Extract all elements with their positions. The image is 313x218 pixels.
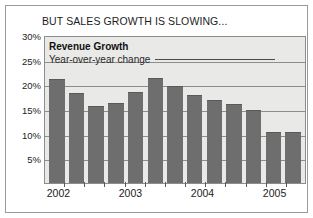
x-axis-tick	[246, 182, 247, 187]
x-axis-tick	[205, 182, 206, 187]
y-axis-tick-label: 25%	[9, 55, 41, 66]
legend-rule	[155, 59, 275, 60]
bar	[226, 104, 242, 183]
x-axis-tick-label: 2002	[47, 187, 70, 199]
x-axis-tick-label: 2005	[263, 187, 286, 199]
bar	[167, 86, 183, 183]
legend-title: Revenue Growth	[49, 40, 275, 53]
x-axis-tick	[104, 182, 105, 187]
x-axis-tick-label: 2003	[119, 187, 142, 199]
x-axis-tick	[64, 182, 65, 187]
bar	[88, 106, 104, 183]
bar	[246, 110, 262, 183]
bar	[148, 78, 164, 183]
x-axis-tick	[225, 182, 226, 187]
bar	[187, 95, 203, 183]
y-axis-tick-label: 5%	[9, 154, 41, 165]
x-axis-tick-label: 2004	[191, 187, 214, 199]
chart-figure: BUT SALES GROWTH IS SLOWING... 5%10%15%2…	[0, 0, 313, 218]
x-axis-tick	[125, 182, 126, 187]
y-axis: 5%10%15%20%25%30%	[6, 36, 41, 184]
x-axis: 2002200320042005	[44, 187, 306, 203]
bar	[285, 132, 301, 183]
x-axis-tick	[84, 182, 85, 187]
bar	[108, 103, 124, 183]
legend-subtitle-row: Year-over-year change	[49, 53, 275, 66]
bar	[207, 100, 223, 183]
x-axis-tick	[145, 182, 146, 187]
legend: Revenue Growth Year-over-year change	[49, 40, 275, 66]
x-axis-tick	[266, 182, 267, 187]
y-axis-tick-label: 10%	[9, 129, 41, 140]
x-axis-tick	[165, 182, 166, 187]
bar	[128, 92, 144, 183]
chart-frame: BUT SALES GROWTH IS SLOWING... 5%10%15%2…	[5, 5, 308, 213]
x-axis-tick	[185, 182, 186, 187]
legend-subtitle: Year-over-year change	[49, 53, 150, 66]
bar	[266, 132, 282, 183]
y-axis-tick-label: 20%	[9, 80, 41, 91]
bar	[49, 79, 65, 183]
x-axis-tick	[286, 182, 287, 187]
plot-area: Revenue Growth Year-over-year change	[44, 36, 306, 184]
y-axis-tick-label: 15%	[9, 105, 41, 116]
bar	[69, 93, 85, 183]
chart-headline: BUT SALES GROWTH IS SLOWING...	[42, 15, 227, 27]
y-axis-tick-label: 30%	[9, 31, 41, 42]
